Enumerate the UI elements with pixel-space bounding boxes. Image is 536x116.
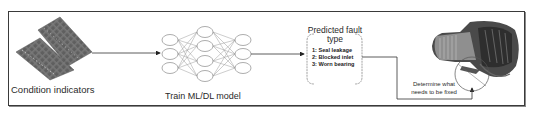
fault-item: 3: Worn bearing [312, 61, 354, 68]
condition-indicators-label: Condition indicators [11, 84, 94, 95]
jet-engine-icon [432, 21, 519, 77]
determine-fix-line2: needs to be fixed [405, 88, 463, 96]
fault-item: 2: Blocked inlet [312, 54, 354, 61]
determine-fix-label: Determine what needs to be fixed [405, 80, 463, 96]
predicted-fault-title-line2: type [306, 35, 364, 44]
data-grid-icon [16, 17, 92, 80]
fault-item: 1: Seal leakage [312, 47, 354, 54]
train-model-label: Train ML/DL model [165, 91, 241, 101]
fault-diagnosis-diagram: Condition indicators Train ML/DL model P… [0, 0, 536, 116]
diagram-graphics [0, 0, 536, 116]
determine-fix-line1: Determine what [405, 80, 463, 88]
neural-network-icon [162, 27, 251, 82]
fault-list: 1: Seal leakage 2: Blocked inlet 3: Worn… [312, 47, 354, 67]
predicted-fault-title: Predicted fault type [306, 26, 364, 44]
